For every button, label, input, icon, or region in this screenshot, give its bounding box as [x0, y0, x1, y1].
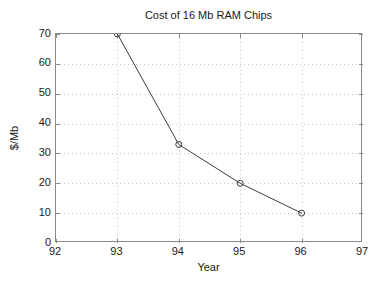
y-tick-label: 70: [5, 28, 51, 39]
y-tick-label: 10: [5, 207, 51, 218]
x-tick-label: 93: [96, 246, 136, 257]
y-tick-label: 60: [5, 57, 51, 68]
plot-area: [55, 33, 362, 242]
x-tick-label: 94: [158, 246, 198, 257]
x-axis-tick-labels: 929394959697: [0, 246, 388, 262]
horizontal-gridlines: [56, 65, 363, 214]
axis-tick-marks: [56, 34, 363, 243]
data-line: [117, 34, 301, 213]
x-tick-label: 97: [342, 246, 382, 257]
y-axis-tick-labels: 010203040506070: [0, 0, 51, 284]
x-tick-label: 95: [219, 246, 259, 257]
chart-title: Cost of 16 Mb RAM Chips: [55, 8, 362, 22]
data-point-markers: [114, 34, 304, 216]
x-tick-label: 96: [281, 246, 321, 257]
vertical-gridlines: [118, 34, 303, 243]
y-tick-label: 40: [5, 117, 51, 128]
plot-canvas: [56, 34, 363, 243]
x-axis-label: Year: [55, 261, 362, 274]
y-tick-label: 30: [5, 147, 51, 158]
y-tick-label: 20: [5, 177, 51, 188]
y-tick-label: 50: [5, 87, 51, 98]
chart-figure: Cost of 16 Mb RAM Chips $/Mb 01020304050…: [0, 0, 388, 284]
x-tick-label: 92: [35, 246, 75, 257]
